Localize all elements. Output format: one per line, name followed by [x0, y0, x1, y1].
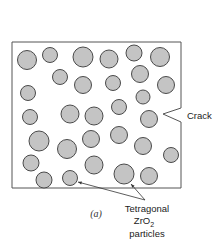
- subscript-2: 2: [150, 221, 154, 228]
- pointer-line: [78, 182, 145, 200]
- figure-caption: (a): [90, 208, 102, 220]
- particles-label-line2: ZrO2: [134, 215, 154, 228]
- zro2-particle: [141, 111, 158, 128]
- zro2-particle: [43, 48, 58, 63]
- zro2-particle: [112, 100, 127, 115]
- zro2-particle: [136, 90, 150, 104]
- zro2-particle: [85, 107, 103, 125]
- particle-pointer-arrows: [78, 181, 145, 200]
- crack-label: Crack: [187, 110, 212, 121]
- zro2-particle: [114, 164, 134, 184]
- zro2-particle: [106, 76, 121, 91]
- zro2-particle: [73, 47, 93, 67]
- zro2-particle: [18, 51, 37, 70]
- zro2-particle: [75, 77, 92, 94]
- zro2-particle: [23, 110, 38, 125]
- particles-group: [18, 45, 179, 188]
- zro2-particle: [53, 70, 68, 85]
- zro2-particle: [23, 155, 39, 171]
- zro2-particle: [63, 171, 78, 186]
- zro2-particle: [151, 48, 170, 67]
- particles-label-line1: Tetragonal: [125, 203, 169, 214]
- zirconia-toughening-diagram: Crack Tetragonal ZrO2 particles (a): [0, 0, 217, 244]
- zro2-particle: [158, 77, 175, 94]
- zro2-particle: [58, 140, 77, 159]
- zro2-particle: [111, 127, 128, 144]
- zro2-particle: [164, 148, 179, 163]
- zro2-particle: [36, 172, 52, 188]
- zro2-particle: [61, 105, 79, 123]
- zro2-particle: [21, 86, 36, 101]
- zro2-particle: [132, 66, 149, 83]
- particles-label-line3: particles: [129, 228, 165, 239]
- zro2-particle: [83, 131, 100, 148]
- zro2-particle: [100, 50, 118, 68]
- zro2-particle: [85, 156, 103, 174]
- zro2-particle: [126, 45, 142, 61]
- zro2-particle: [29, 131, 49, 151]
- zro2-particle: [135, 138, 152, 155]
- zro2-particle: [141, 168, 158, 185]
- zro-text: ZrO: [134, 215, 150, 226]
